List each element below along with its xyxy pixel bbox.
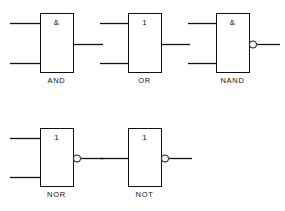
gate-nor-inversion-bubble [73,155,80,162]
gate-or[interactable]: 1 [100,14,190,73]
gate-nor-symbol: 1 [54,133,59,142]
gate-or-label: OR [128,76,161,85]
gate-not-label: NOT [125,190,164,199]
gate-not-symbol: 1 [142,133,147,142]
gate-and-label: AND [40,76,73,85]
logic-gate-diagram: &1&11 ANDORNANDNORNOT [0,0,285,211]
gate-nand-symbol: & [230,18,236,27]
gate-diagram-canvas: &1&11 [0,0,285,211]
gate-nor[interactable]: 1 [10,129,104,187]
gate-and[interactable]: & [10,14,103,73]
gate-nand-label: NAND [212,76,253,85]
gate-nand-inversion-bubble [249,41,256,48]
gate-not[interactable]: 1 [100,129,192,187]
gate-nor-label: NOR [37,190,76,199]
gate-not-inversion-bubble [161,155,168,162]
gate-nand[interactable]: & [188,14,280,73]
gate-or-symbol: 1 [142,18,147,27]
gate-and-symbol: & [54,18,60,27]
